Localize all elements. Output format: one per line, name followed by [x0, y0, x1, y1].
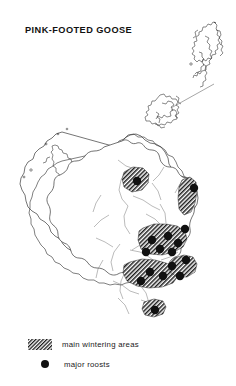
border-line-near-orkney [171, 84, 214, 108]
roost-dot [159, 272, 167, 280]
roost-dot [137, 277, 145, 285]
roost-dot [156, 245, 164, 253]
map-page: PINK-FOOTED GOOSE [0, 0, 236, 386]
roost-dot [142, 248, 150, 256]
legend-row-wintering-areas: main wintering areas [28, 334, 228, 354]
roost-dot [133, 177, 141, 185]
shetland-islands [190, 22, 223, 87]
map-legend: main wintering areas major roosts [28, 334, 228, 374]
roost-dot [182, 256, 190, 264]
filled-circle-icon [28, 360, 62, 368]
roost-dot [181, 225, 189, 233]
roost-dot [146, 268, 154, 276]
legend-label-wintering-areas: main wintering areas [62, 340, 139, 349]
roost-dot [164, 232, 172, 240]
roost-dot [151, 306, 159, 314]
scotland-distribution-map [0, 0, 236, 386]
roost-dot [168, 248, 176, 256]
orkney-islands [145, 94, 181, 128]
roost-dot [176, 272, 184, 280]
legend-row-major-roosts: major roosts [28, 354, 228, 374]
legend-label-major-roosts: major roosts [64, 360, 110, 369]
roost-dot [174, 239, 182, 247]
fair-isle [190, 63, 193, 65]
roost-dot [190, 184, 198, 192]
diagonal-hatch-swatch [28, 339, 62, 350]
roost-dot [168, 262, 176, 270]
roost-dot [148, 236, 156, 244]
